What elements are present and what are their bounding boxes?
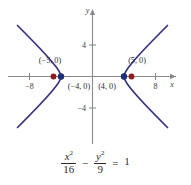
- y-axis-arrow: [90, 9, 95, 15]
- y-tick-label-4: 4: [82, 41, 86, 50]
- right-hand-side: 1: [124, 155, 130, 167]
- equation-caption: x2 16 − y2 9 = 1: [0, 150, 191, 175]
- axes-group: [8, 9, 176, 144]
- term-y-squared-over-9: y2 9: [94, 150, 106, 175]
- focus-left-label: (−5, 0): [39, 56, 62, 65]
- term-x-squared-over-16: x2 16: [61, 150, 76, 175]
- y-tick-label--4: −4: [77, 104, 86, 113]
- equals-sign: =: [109, 157, 121, 169]
- focus-left-dot: [51, 74, 57, 80]
- denominator-9: 9: [94, 164, 106, 176]
- x-tick-label-8: 8: [154, 82, 158, 91]
- x-axis-label: x: [169, 80, 174, 89]
- x-squared-numerator: x2: [61, 150, 76, 164]
- vertex-right-label: (4, 0): [98, 82, 116, 91]
- vertex-left-label: (−4, 0): [68, 82, 91, 91]
- x-tick-label--8: −8: [25, 82, 34, 91]
- focus-right-dot: [129, 74, 135, 80]
- y-axis-label: y: [85, 6, 90, 15]
- vertex-right-dot: [121, 73, 127, 79]
- vertex-left-dot: [58, 73, 64, 79]
- denominator-16: 16: [61, 164, 76, 176]
- x-axis-arrow: [170, 74, 176, 79]
- focus-right-label: (5, 0): [128, 56, 146, 65]
- minus-operator: −: [79, 157, 91, 169]
- y-squared-numerator: y2: [94, 150, 106, 164]
